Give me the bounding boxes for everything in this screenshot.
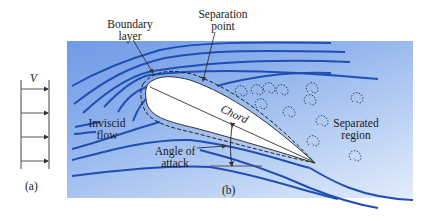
inviscid-flow-label-line1: Inviscid	[84, 117, 130, 129]
boundary-layer-label-line1: Boundary	[106, 18, 154, 30]
caption-a: (a)	[25, 180, 38, 192]
angle-of-attack-label: Angle of attack	[150, 145, 200, 169]
angle-of-attack-label-line2: attack	[150, 157, 200, 169]
boundary-layer-label-line2: layer	[106, 30, 154, 42]
separated-region-label-line1: Separated	[328, 117, 384, 129]
inviscid-flow-label-line2: flow	[84, 129, 130, 141]
airfoil-flow-diagram	[0, 0, 430, 221]
boundary-layer-label: Boundary layer	[106, 18, 154, 42]
inviscid-flow-label: Inviscid flow	[84, 117, 130, 141]
velocity-profile	[21, 80, 49, 169]
angle-of-attack-label-line1: Angle of	[150, 145, 200, 157]
separation-point-label-line1: Separation	[193, 8, 253, 20]
separation-point-label: Separation point	[193, 8, 253, 32]
separated-region-label-line2: region	[328, 129, 384, 141]
separation-point-label-line2: point	[193, 20, 253, 32]
caption-b: (b)	[222, 184, 235, 196]
velocity-label: V	[30, 72, 37, 84]
separated-region-label: Separated region	[328, 117, 384, 141]
